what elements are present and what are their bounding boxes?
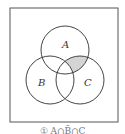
venn-diagram: A B C xyxy=(0,0,125,134)
set-a-label: A xyxy=(61,39,69,50)
set-c-label: C xyxy=(84,77,92,88)
option-caption: ① A∩B̄∩C xyxy=(0,126,125,134)
set-b-label: B xyxy=(37,77,45,88)
